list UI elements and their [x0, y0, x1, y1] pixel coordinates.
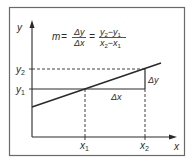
formula-equals-1: = — [61, 31, 67, 42]
x2-label: x2 — [139, 140, 149, 152]
delta-y-label: Δy — [147, 75, 159, 85]
formula-frac2-denominator: x2−x1 — [99, 38, 122, 49]
formula-equals-2: = — [89, 31, 95, 42]
formula-m: m — [52, 31, 60, 42]
slope-diagram: y x y2 y1 x1 x2 Δy Δx m = Δy Δx = y2−y1 … — [0, 0, 195, 163]
y-axis-arrow-icon — [30, 20, 35, 28]
formula-frac2-numerator: y2−y1 — [99, 27, 122, 38]
x-axis-label: x — [173, 141, 180, 152]
linear-function-line — [32, 63, 161, 107]
y2-label: y2 — [15, 64, 25, 76]
formula-frac1-denominator: Δx — [73, 38, 85, 48]
y1-label: y1 — [15, 84, 25, 96]
x-axis-arrow-icon — [169, 135, 177, 140]
x1-label: x1 — [79, 140, 89, 152]
slope-formula: m = Δy Δx = y2−y1 x2−x1 — [52, 27, 126, 49]
y-axis-label: y — [16, 22, 23, 33]
formula-frac1-numerator: Δy — [73, 27, 85, 37]
delta-x-label: Δx — [110, 92, 122, 102]
